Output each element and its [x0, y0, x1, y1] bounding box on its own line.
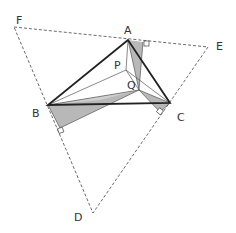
- right-angle-marker-b: [57, 127, 63, 133]
- label-c: C: [177, 111, 185, 124]
- shaded-region-b: [48, 90, 139, 128]
- label-b: B: [32, 107, 40, 120]
- right-angle-marker-a: [144, 41, 149, 46]
- label-e: E: [216, 40, 223, 53]
- label-q: Q: [127, 79, 136, 92]
- geometry-diagram: A B C D E F P Q: [0, 0, 236, 233]
- label-f: F: [16, 14, 22, 27]
- label-d: D: [74, 211, 82, 224]
- label-p: P: [114, 59, 121, 72]
- label-a: A: [124, 24, 132, 37]
